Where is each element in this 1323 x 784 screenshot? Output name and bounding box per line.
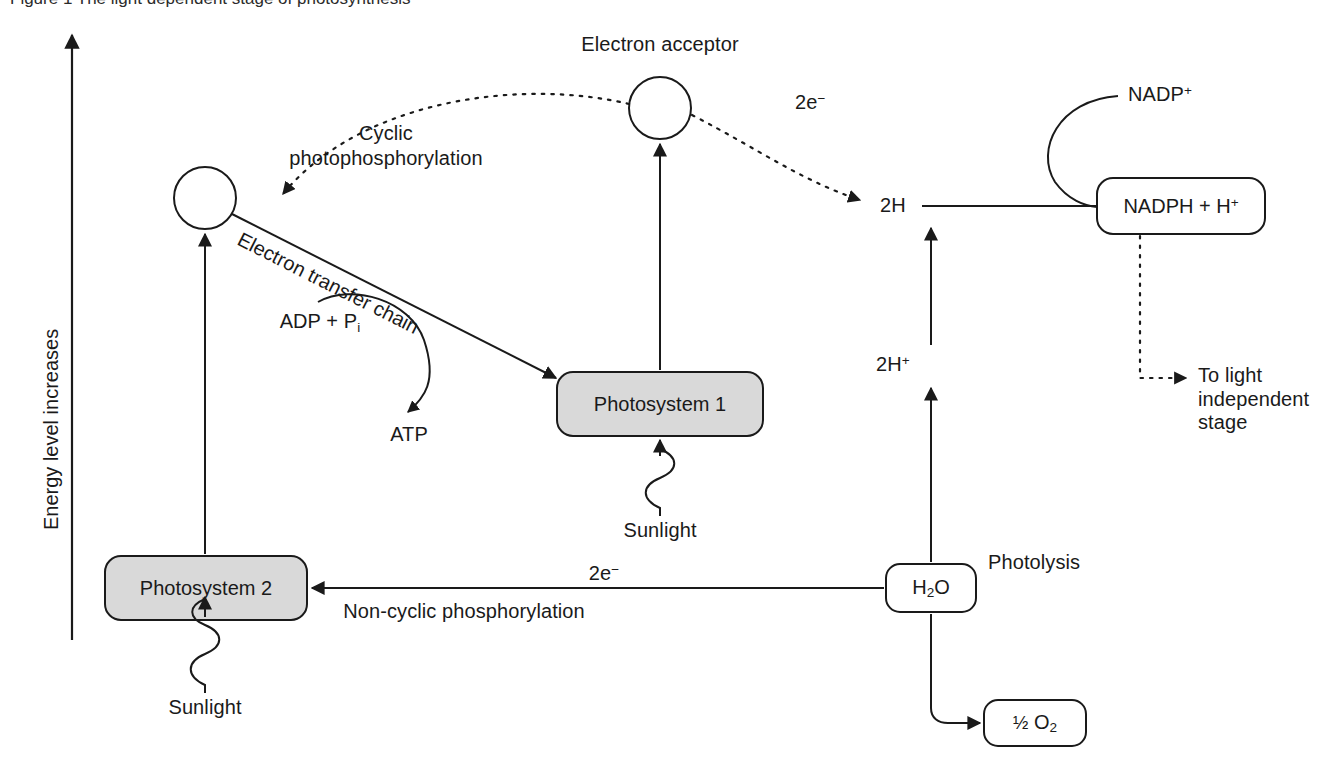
photosystem-1-label: Photosystem 1: [594, 393, 726, 416]
cyclic-photophosphorylation-line2: photophosphorylation: [289, 147, 482, 171]
energy-axis-label: Energy level increases: [40, 329, 63, 530]
two-electrons-top-label: 2e−: [795, 91, 826, 115]
nadp-plus-label: NADP+: [1128, 83, 1192, 107]
two-electrons-bottom-label: 2e−: [589, 562, 620, 586]
sunlight-ps2-label: Sunlight: [168, 696, 241, 720]
two-h-label: 2H: [880, 194, 906, 218]
non-cyclic-phosphorylation-label: Non-cyclic phosphorylation: [343, 600, 585, 624]
atp-label: ATP: [390, 423, 428, 447]
edge-cyclic-photophosphorylation: [283, 94, 629, 194]
ps2-acceptor-circle: [174, 167, 236, 229]
sunlight-ps1-label: Sunlight: [623, 519, 696, 543]
photolysis-label: Photolysis: [988, 551, 1080, 575]
adp-label: ADP + Pi: [280, 310, 361, 336]
electron-acceptor-label: Electron acceptor: [581, 33, 738, 57]
cyclic-photophosphorylation-line1: Cyclic: [359, 122, 413, 146]
nadph-label: NADPH + H+: [1123, 195, 1238, 218]
photosystem-2-label: Photosystem 2: [140, 577, 272, 600]
to-light-independent-stage-label: To light independent stage: [1198, 364, 1316, 435]
water-label: H2O: [912, 576, 950, 601]
edge-two-electrons-to-2h: [692, 115, 860, 200]
sunlight-ps1-wave: [646, 440, 675, 516]
figure-canvas: Figure 1 The light dependent stage of ph…: [0, 0, 1323, 784]
electron-acceptor-circle: [629, 77, 691, 139]
edge-electron-transfer-chain: [232, 214, 556, 378]
edge-water-to-oxygen: [931, 614, 980, 723]
edge-nadph-to-light-independent: [1140, 236, 1186, 378]
two-h-plus-label: 2H+: [876, 353, 910, 377]
oxygen-label: ½ O2: [1013, 711, 1057, 736]
